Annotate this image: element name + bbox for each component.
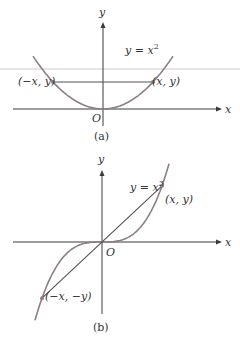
- x-axis-label: x: [225, 236, 232, 249]
- point-left: [40, 296, 44, 300]
- y-axis-arrow-icon: [101, 22, 106, 28]
- figure-a-parabola: y x O y = x2 (−x, y) (x, y) (a): [13, 6, 232, 143]
- equation-label: y = x3: [129, 179, 164, 194]
- point-right-label: (x, y): [165, 193, 193, 206]
- y-axis-label: y: [98, 6, 106, 19]
- x-axis-label: x: [225, 103, 232, 116]
- equation-label: y = x2: [124, 42, 159, 57]
- y-axis-arrow-icon: [100, 170, 105, 176]
- x-axis-arrow-icon: [216, 107, 222, 112]
- x-axis-arrow-icon: [216, 240, 222, 245]
- point-left-label: (−x, y): [18, 75, 55, 88]
- figure-b-cubic: y x O y = x3 (−x, −y) (x, y) (b): [13, 153, 232, 334]
- point-right-label: (x, y): [152, 75, 180, 88]
- caption-b: (b): [93, 321, 109, 334]
- point-left-label: (−x, −y): [45, 290, 91, 303]
- caption-a: (a): [94, 130, 109, 143]
- figure: y x O y = x2 (−x, y) (x, y) (a) y x O y …: [0, 0, 240, 338]
- origin-label: O: [106, 246, 115, 259]
- y-axis-label: y: [97, 153, 105, 166]
- origin-label: O: [92, 112, 101, 125]
